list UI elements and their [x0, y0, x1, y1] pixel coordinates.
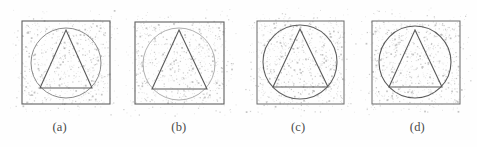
panel-row: (a) (b) (c) (d) — [0, 0, 477, 147]
panel-canvas-d — [358, 0, 477, 120]
panel-caption-b: (b) — [119, 120, 238, 135]
figure-panel-b: (b) — [119, 0, 238, 147]
figure-panel-d: (d) — [358, 0, 477, 147]
panel-caption-c: (c) — [239, 120, 358, 135]
triangle-outline — [273, 29, 328, 87]
figure-panel-a: (a) — [0, 0, 119, 147]
figure-root: (a) (b) (c) (d) — [0, 0, 477, 147]
noise-speckle-layer — [245, 8, 356, 117]
noise-overlay-layer — [14, 14, 118, 112]
noise-speckle-layer — [124, 9, 237, 116]
circle-outline — [263, 25, 337, 99]
panel-graphic — [0, 0, 119, 120]
panel-canvas-b — [119, 0, 238, 120]
panel-graphic — [358, 0, 477, 120]
triangle-outline — [389, 30, 442, 87]
panel-canvas-c — [239, 0, 358, 120]
panel-graphic — [119, 0, 238, 120]
panel-canvas-a — [0, 0, 119, 120]
panel-caption-d: (d) — [358, 120, 477, 135]
panel-graphic — [239, 0, 358, 120]
triangle-outline — [152, 30, 207, 89]
triangle-outline — [40, 30, 92, 88]
noise-speckle-layer — [360, 8, 472, 115]
figure-panel-c: (c) — [239, 0, 358, 147]
panel-caption-a: (a) — [0, 120, 119, 135]
noise-speckle-layer — [10, 10, 118, 116]
